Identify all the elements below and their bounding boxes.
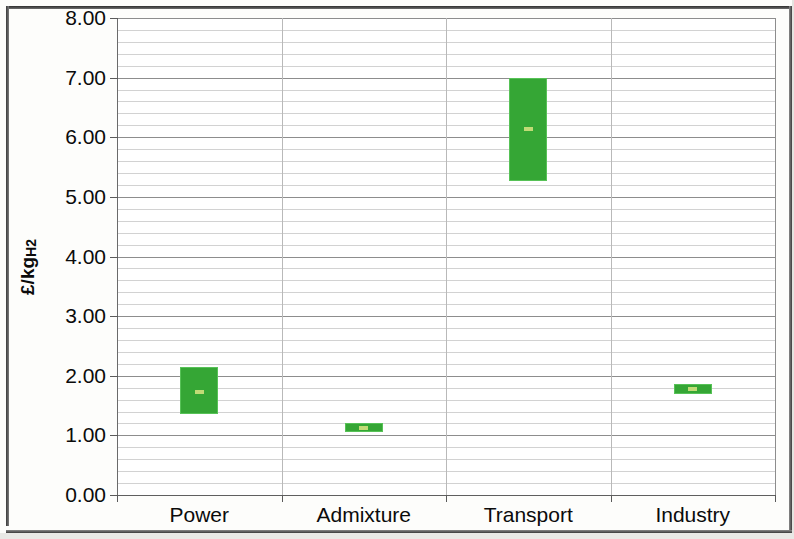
y-axis-tick-label: 5.00 (32, 186, 106, 207)
y-axis-tick-labels: 8.007.006.005.004.003.002.001.000.00 (28, 0, 106, 539)
y-axis-tick-label: 0.00 (32, 484, 106, 505)
midpoint-marker-power (195, 390, 204, 394)
category-separator (446, 18, 447, 495)
y-axis-tick-mark (110, 257, 118, 258)
y-axis-tick-mark (110, 78, 118, 79)
y-axis-tick-label: 8.00 (32, 7, 106, 28)
x-axis-category-label-admixture: Admixture (282, 503, 447, 526)
plot-area (117, 18, 775, 495)
y-axis-tick-mark (110, 137, 118, 138)
y-axis-tick-label: 7.00 (32, 67, 106, 88)
y-axis-tick-label: 2.00 (32, 365, 106, 386)
y-axis-tick-mark (110, 197, 118, 198)
y-axis-tick-mark (110, 18, 118, 19)
x-axis-category-label-power: Power (117, 503, 282, 526)
x-axis-tick-mark (117, 495, 118, 502)
midpoint-marker-admixture (359, 426, 368, 430)
y-axis-tick-label: 3.00 (32, 305, 106, 326)
x-axis-category-label-transport: Transport (446, 503, 611, 526)
x-axis-tick-mark (775, 495, 776, 502)
y-axis-tick-label: 4.00 (32, 246, 106, 267)
y-axis-tick-mark (110, 435, 118, 436)
y-axis-tick-label: 6.00 (32, 126, 106, 147)
category-separator (282, 18, 283, 495)
y-axis-tick-mark (110, 376, 118, 377)
x-axis-tick-mark (282, 495, 283, 502)
category-separator (611, 18, 612, 495)
x-axis-line (110, 495, 776, 496)
midpoint-marker-transport (524, 127, 533, 131)
category-separator (775, 18, 776, 495)
x-axis-tick-mark (611, 495, 612, 502)
x-axis-category-label-industry: Industry (611, 503, 776, 526)
y-axis-tick-mark (110, 316, 118, 317)
range-bar-chart: £/kgH2 8.007.006.005.004.003.002.001.000… (0, 0, 794, 539)
y-axis-tick-label: 1.00 (32, 424, 106, 445)
midpoint-marker-industry (688, 387, 697, 391)
x-axis-tick-mark (446, 495, 447, 502)
